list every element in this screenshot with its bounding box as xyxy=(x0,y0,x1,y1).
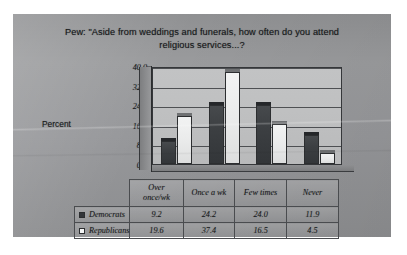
table-header-category: Overonce/wk xyxy=(130,180,183,207)
bar-democrats-0 xyxy=(161,141,176,164)
chart-panel: Pew: "Aside from weddings and funerals, … xyxy=(13,14,391,237)
chart-image: Pew: "Aside from weddings and funerals, … xyxy=(0,0,407,255)
bar-face xyxy=(225,72,240,164)
legend-label: Democrats xyxy=(89,210,125,219)
legend-label: Republicans xyxy=(89,226,129,235)
table-row: Democrats9.224.224.011.9 xyxy=(75,207,339,223)
table-cell-value: 11.9 xyxy=(286,207,338,223)
category-label-part: Never xyxy=(303,188,323,197)
bar-republicans-3 xyxy=(320,153,335,164)
bar-republicans-0 xyxy=(177,116,192,164)
bar-democrats-1 xyxy=(209,105,224,164)
bar-face xyxy=(256,105,271,164)
category-label-part: Once a wk xyxy=(192,188,227,197)
bar-face xyxy=(209,105,224,164)
table-header-category: Once a wk xyxy=(183,180,235,207)
table-row: Republicans19.637.416.54.5 xyxy=(75,223,339,239)
plot-canvas xyxy=(152,67,342,165)
table-cell-value: 4.5 xyxy=(286,223,338,239)
bar-democrats-2 xyxy=(256,105,271,164)
table-cell-value: 19.6 xyxy=(130,223,183,239)
table-cell-value: 24.0 xyxy=(235,207,287,223)
chart-title-line-2: religious services...? xyxy=(159,40,244,50)
bar-face xyxy=(177,116,192,164)
y-axis-label: Percent xyxy=(42,119,71,129)
table-cell-value: 16.5 xyxy=(235,223,287,239)
table-cell-value: 9.2 xyxy=(130,207,183,223)
gridline xyxy=(153,68,341,69)
table-cell-value: 24.2 xyxy=(183,207,235,223)
plot-area: 40.032.024.016.08.00.0 xyxy=(139,67,351,179)
gridline xyxy=(153,107,341,108)
table-header-category: Few times xyxy=(235,180,287,207)
plot-floor xyxy=(152,165,354,172)
category-label-part: Few times xyxy=(244,188,277,197)
category-label-part: once/wk xyxy=(143,193,170,202)
bar-face xyxy=(161,141,176,164)
empty-square-icon xyxy=(79,228,85,234)
filled-square-icon xyxy=(79,212,85,218)
category-label-part: Over xyxy=(148,183,164,192)
bar-face xyxy=(320,153,335,164)
bar-republicans-1 xyxy=(225,72,240,164)
legend-entry-republicans: Republicans xyxy=(75,223,130,239)
chart-title-line-1: Pew: "Aside from weddings and funerals, … xyxy=(65,27,339,37)
bar-republicans-2 xyxy=(272,124,287,164)
table-cell-value: 37.4 xyxy=(183,223,235,239)
bar-face xyxy=(272,124,287,164)
gridline xyxy=(153,88,341,89)
bar-democrats-3 xyxy=(304,135,319,164)
legend-entry-democrats: Democrats xyxy=(75,207,130,223)
chart-title: Pew: "Aside from weddings and funerals, … xyxy=(41,26,363,52)
data-table: Overonce/wkOnce a wkFew timesNeverDemocr… xyxy=(74,179,339,239)
table-corner-cell xyxy=(75,180,130,207)
bar-face xyxy=(304,135,319,164)
table-header-category: Never xyxy=(286,180,338,207)
table-row-categories: Overonce/wkOnce a wkFew timesNever xyxy=(75,180,339,207)
data-table-body: Overonce/wkOnce a wkFew timesNeverDemocr… xyxy=(75,180,339,239)
y-axis-line xyxy=(151,66,152,172)
